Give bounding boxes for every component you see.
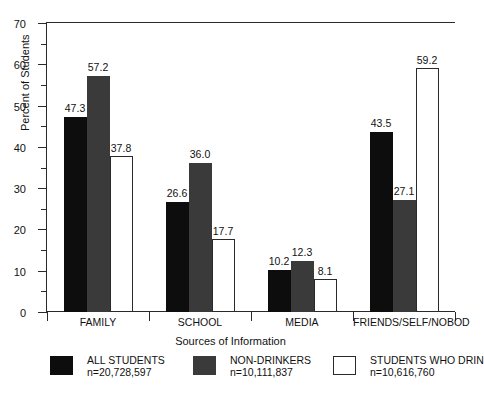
bar-value-label: 37.8 <box>111 142 131 154</box>
legend-text: NON-DRINKERSn=10,111,837 <box>230 354 311 378</box>
y-tick-minor <box>41 291 47 292</box>
y-tick-major: 30 <box>38 188 47 189</box>
legend-series-name: ALL STUDENTS <box>87 354 165 366</box>
y-tick-major: 50 <box>38 106 47 107</box>
legend-text: STUDENTS WHO DRINn=10,616,760 <box>370 354 484 378</box>
y-tick-major: 20 <box>38 229 47 230</box>
bar: 8.1 <box>314 279 337 312</box>
legend-swatch <box>333 356 356 375</box>
legend-swatch <box>193 356 216 375</box>
y-tick-major: 60 <box>38 64 47 65</box>
y-tick-minor <box>41 126 47 127</box>
y-tick-minor <box>41 250 47 251</box>
bar: 27.1 <box>393 200 416 312</box>
bar: 10.2 <box>268 270 291 312</box>
y-tick-label: 30 <box>14 183 26 195</box>
y-tick-major: 40 <box>38 147 47 148</box>
legend-text: ALL STUDENTSn=20,728,597 <box>87 354 165 378</box>
bar-value-label: 27.1 <box>394 185 414 197</box>
bar: 47.3 <box>64 117 87 312</box>
bar: 57.2 <box>87 76 110 312</box>
chart-legend: ALL STUDENTSn=20,728,597NON-DRINKERSn=10… <box>0 355 461 385</box>
legend-series-count: n=20,728,597 <box>87 366 165 378</box>
legend-series-count: n=10,111,837 <box>230 366 311 378</box>
y-tick-major: 70 <box>38 23 47 24</box>
x-category-label: SCHOOL <box>149 316 251 328</box>
y-tick-minor <box>41 44 47 45</box>
bar-value-label: 26.6 <box>167 187 187 199</box>
bar-value-label: 8.1 <box>318 265 333 277</box>
bar-value-label: 12.3 <box>292 246 312 258</box>
plot-area: Percent of Students 010203040506070 47.3… <box>47 23 455 312</box>
bar: 26.6 <box>166 202 189 312</box>
bar-value-label: 59.2 <box>417 54 437 66</box>
x-axis-title: Sources of Information <box>0 335 461 347</box>
y-tick-major: 10 <box>38 271 47 272</box>
bar-value-label: 17.7 <box>213 225 233 237</box>
bar-value-label: 10.2 <box>269 255 289 267</box>
y-tick-label: 60 <box>14 59 26 71</box>
y-tick-label: 20 <box>14 224 26 236</box>
bar-value-label: 57.2 <box>88 61 108 73</box>
legend-swatch <box>50 356 73 375</box>
y-axis-title: Percent of Students <box>19 34 31 131</box>
bar: 17.7 <box>212 239 235 312</box>
y-tick-label: 50 <box>14 101 26 113</box>
bar: 36.0 <box>189 163 212 312</box>
x-category-label: MEDIA <box>251 316 353 328</box>
bar-value-label: 36.0 <box>190 148 210 160</box>
x-category-label: FRIENDS/SELF/NOBOD <box>353 316 455 328</box>
y-tick-minor <box>41 209 47 210</box>
y-tick-major: 0 <box>38 312 47 313</box>
legend-series-name: STUDENTS WHO DRIN <box>370 354 484 366</box>
y-tick-label: 10 <box>14 266 26 278</box>
y-tick-label: 0 <box>20 307 26 319</box>
bar: 12.3 <box>291 261 314 312</box>
y-tick-minor <box>41 168 47 169</box>
legend-series-name: NON-DRINKERS <box>230 354 311 366</box>
bar: 43.5 <box>370 132 393 312</box>
y-tick-minor <box>41 85 47 86</box>
bar-value-label: 47.3 <box>65 102 85 114</box>
y-tick-label: 70 <box>14 18 26 30</box>
bar-value-label: 43.5 <box>371 117 391 129</box>
legend-series-count: n=10,616,760 <box>370 366 484 378</box>
bar: 59.2 <box>416 68 439 312</box>
bar: 37.8 <box>110 156 133 312</box>
x-category-label: FAMILY <box>47 316 149 328</box>
y-tick-label: 40 <box>14 142 26 154</box>
